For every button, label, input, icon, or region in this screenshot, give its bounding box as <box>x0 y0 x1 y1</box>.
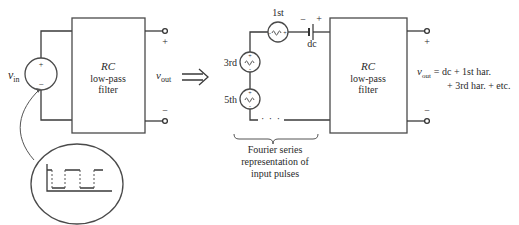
first-harmonic-label: 1st <box>272 7 284 18</box>
right-filter-word-label: filter <box>358 84 378 95</box>
right-minus-terminal-icon <box>425 119 430 124</box>
battery-plus-label: + <box>316 13 322 24</box>
right-plus-terminal-icon <box>425 29 430 34</box>
right-filter-rc-label: RC <box>360 60 376 72</box>
brace-caption-line2: representation of <box>241 156 309 167</box>
third-harmonic-label: 3rd <box>224 57 237 68</box>
right-terminal-plus-label: + <box>424 36 430 47</box>
implies-arrow-icon <box>182 69 208 85</box>
left-filter-rc-label: RC <box>100 60 116 72</box>
input-voltage-source-icon: + − <box>25 58 57 90</box>
left-plus-terminal-icon <box>163 29 168 34</box>
vin-label: vin <box>8 68 20 84</box>
source-minus-sign: − <box>38 79 43 89</box>
svg-text:-: - <box>249 66 251 72</box>
source-plus-sign: + <box>39 60 44 69</box>
first-harmonic-source-icon: - + <box>268 22 288 42</box>
inset-ellipse <box>31 144 123 224</box>
right-circuit: - + 1st − + dc + - 3rd + - 5th · · <box>224 7 511 179</box>
left-bottom-wire <box>41 90 72 120</box>
callout-leader-line <box>20 89 40 160</box>
grouping-brace-icon <box>234 134 318 144</box>
fifth-harmonic-label: 5th <box>224 94 237 105</box>
right-left-top-wire <box>250 32 268 52</box>
left-circuit: + − vin RC low-pass filter + − vout <box>8 18 172 133</box>
left-filter-type-label: low-pass <box>90 73 126 84</box>
left-minus-terminal-icon <box>163 119 168 124</box>
fifth-harmonic-source-icon: + - <box>240 89 260 109</box>
battery-minus-label: − <box>300 14 306 25</box>
dc-label: dc <box>307 38 317 49</box>
fourier-filter-diagram: + − vin RC low-pass filter + − vout <box>0 0 519 225</box>
svg-text:-: - <box>269 30 271 36</box>
output-equation-line1: vout= dc + 1st har. <box>417 65 491 80</box>
output-equation-line2: + 3rd har. + etc. <box>447 80 510 91</box>
third-harmonic-source-icon: + - <box>240 52 260 72</box>
left-terminal-plus-label: + <box>162 36 168 47</box>
brace-caption-line1: Fourier series <box>248 144 303 155</box>
vout-label: vout <box>156 69 172 84</box>
right-bottom-left-wire <box>250 109 258 120</box>
left-terminal-minus-label: − <box>162 105 168 116</box>
right-filter-type-label: low-pass <box>350 73 386 84</box>
continuation-dots: · · · <box>261 113 281 124</box>
right-terminal-minus-label: − <box>424 105 430 116</box>
svg-text:-: - <box>249 103 251 109</box>
left-top-wire <box>41 31 72 58</box>
left-filter-word-label: filter <box>98 84 118 95</box>
brace-caption-line3: input pulses <box>251 168 299 179</box>
